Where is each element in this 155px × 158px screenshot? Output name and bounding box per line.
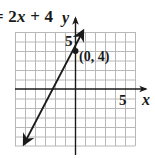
y-tick-label-5: 5 (65, 33, 73, 49)
x-tick-label-5: 5 (119, 92, 127, 108)
y-axis-label: y (60, 9, 70, 27)
point-label: (0, 4) (79, 49, 110, 65)
point-marker (73, 48, 79, 54)
x-axis-label: x (141, 91, 150, 108)
coordinate-plane: y x 5 5 (0, 4) (0, 0, 155, 158)
graph-figure: = 2x + 4 (0, 0, 155, 158)
